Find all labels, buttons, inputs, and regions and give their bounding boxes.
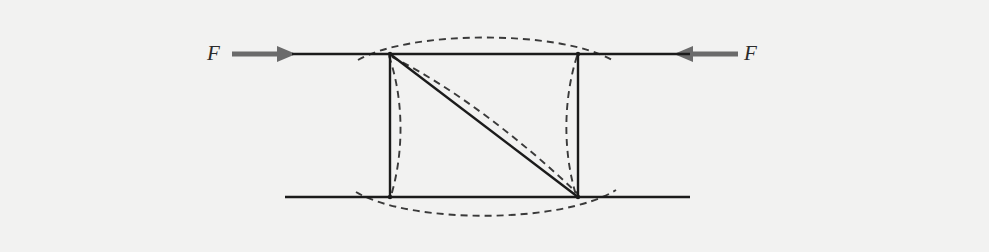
figure-root: F F	[0, 0, 989, 252]
joint-top-left	[388, 52, 392, 56]
deformed-top-member	[358, 38, 612, 61]
joint-top-right	[576, 52, 580, 56]
force-label-right: F	[744, 43, 757, 64]
deformed-right-column	[566, 56, 577, 195]
frame-buckling-diagram	[0, 0, 989, 252]
diagonal-brace	[390, 54, 578, 197]
joint-bottom-right	[576, 195, 580, 199]
force-label-left: F	[207, 43, 220, 64]
undeformed-frame-group	[285, 54, 690, 197]
joint-bottom-left	[388, 195, 392, 199]
force-arrow-left-group	[232, 46, 296, 62]
